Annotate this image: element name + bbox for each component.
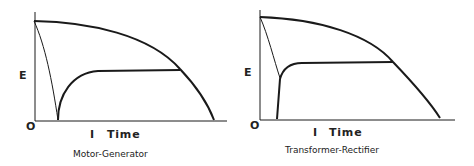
x-marker-label: I: [313, 126, 317, 139]
chart-transformer-rectifier: E O I Time Transformer-Rectifier: [244, 10, 455, 155]
x-marker-label: I: [90, 128, 94, 141]
voltage-drop-curve: [260, 17, 280, 78]
recovery-curve: [58, 70, 180, 120]
origin-label: O: [250, 119, 259, 132]
origin-label: O: [26, 120, 35, 133]
y-axis-label: E: [244, 66, 252, 79]
y-axis-label: E: [19, 69, 27, 82]
caption: Motor-Generator: [73, 149, 148, 159]
caption: Transformer-Rectifier: [284, 145, 379, 155]
recovery-curve: [277, 62, 393, 119]
voltage-drop-curve: [34, 21, 58, 120]
x-axis-label: Time: [107, 128, 140, 141]
chart-motor-generator: E O I Time Motor-Generator: [19, 12, 227, 159]
diagram-canvas: E O I Time Motor-Generator E O I Time Tr…: [0, 0, 474, 166]
x-axis-label: Time: [329, 126, 362, 139]
